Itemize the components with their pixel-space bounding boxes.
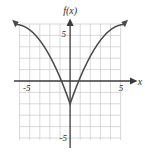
x-axis-name-label: x (137, 76, 143, 87)
y-tick-label-positive-five: 5 (62, 29, 67, 39)
graph-figure: f(x) x 5 -5 -5 5 (0, 0, 145, 153)
x-tick-label-negative-five: -5 (23, 83, 31, 93)
x-tick-label-positive-five: 5 (119, 83, 124, 93)
function-label: f(x) (63, 5, 78, 17)
y-tick-label-negative-five: -5 (60, 133, 68, 143)
